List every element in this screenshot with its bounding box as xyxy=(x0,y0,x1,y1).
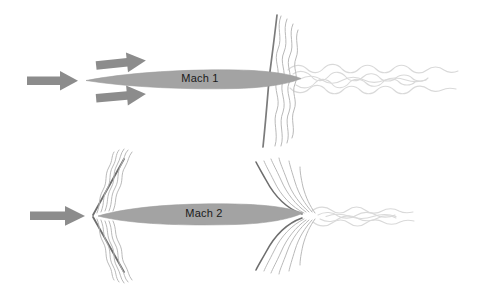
nose-wave-lines-upper-mach-2 xyxy=(97,149,132,213)
flow-diagram-canvas: Mach 1 xyxy=(0,0,495,285)
inflow-arrow-upper-mach-1 xyxy=(95,51,147,76)
body-label-mach-2: Mach 2 xyxy=(185,207,222,219)
nose-wave-lines-lower-mach-2 xyxy=(97,219,132,283)
tail-shock-lower-mach-2 xyxy=(256,218,302,270)
turbulent-wake-mach-1 xyxy=(288,64,458,93)
inflow-arrow-center-mach-1 xyxy=(27,71,78,91)
turbulent-wake-mach-2 xyxy=(312,207,414,226)
body-label-mach-1: Mach 1 xyxy=(181,72,218,84)
tail-wave-lines-upper-mach-2 xyxy=(264,158,315,213)
supersonic-flow-diagram: Mach 1 xyxy=(0,0,495,285)
inflow-arrow-lower-mach-1 xyxy=(95,84,147,108)
panel-mach-2: Mach 2 xyxy=(30,149,414,283)
tail-wave-lines-lower-mach-2 xyxy=(264,219,315,274)
panel-mach-1: Mach 1 xyxy=(27,15,458,147)
inflow-arrow-center-mach-2 xyxy=(30,206,85,226)
